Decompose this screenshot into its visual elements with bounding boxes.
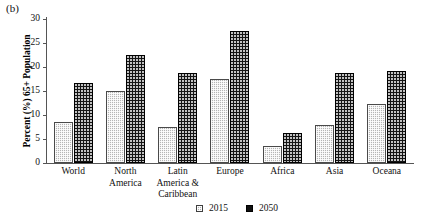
figure-panel-b: (b) Percent (%) 65+ Population 051015202…: [0, 0, 421, 218]
bar-group: [99, 19, 151, 163]
y-axis-tick-mark: [43, 163, 47, 164]
bar-2050-north-america: [126, 55, 145, 163]
bar-2050-latin-america-caribbean: [178, 73, 197, 163]
x-axis-label-line: Oceana: [355, 166, 419, 178]
bar-2015-latin-america-caribbean: [158, 127, 177, 163]
y-axis-tick-label: 0: [35, 156, 40, 169]
bar-group: [47, 19, 99, 163]
bar-2050-asia: [335, 73, 354, 163]
x-axis-label-line: Caribbean: [146, 189, 210, 201]
bar-2015-asia: [315, 125, 334, 163]
plot-area: [47, 19, 413, 163]
bar-2050-africa: [283, 133, 302, 163]
solid-black-swatch: [246, 205, 253, 212]
legend-label: 2015: [209, 203, 228, 213]
y-axis-tick-label: 25: [31, 36, 41, 49]
legend-item-2015[interactable]: 2015: [196, 203, 228, 213]
y-axis-tick-label: 15: [31, 84, 41, 97]
bar-group: [361, 19, 413, 163]
checkered-gray-swatch: [196, 205, 203, 212]
x-axis-label-oceana: Oceana: [355, 166, 419, 178]
bar-group: [256, 19, 308, 163]
bar-group: [152, 19, 204, 163]
y-axis-tick-label: 30: [31, 12, 41, 25]
bar-2015-world: [54, 122, 73, 163]
bar-2015-africa: [263, 146, 282, 163]
y-axis-tick-label: 20: [31, 60, 41, 73]
bar-2050-world: [74, 83, 93, 163]
bar-2015-europe: [210, 79, 229, 163]
bar-2050-oceana: [387, 71, 406, 163]
y-axis-tick-label: 10: [31, 108, 41, 121]
bar-2015-oceana: [367, 104, 386, 163]
legend-item-2050[interactable]: 2050: [246, 203, 278, 213]
bar-2015-north-america: [106, 91, 125, 163]
bar-2050-europe: [230, 31, 249, 163]
x-axis-line: [46, 163, 414, 164]
bar-group: [308, 19, 360, 163]
chart-legend: 20152050: [196, 203, 278, 213]
legend-label: 2050: [259, 203, 278, 213]
panel-label: (b): [6, 2, 19, 14]
x-axis-label-line: America &: [146, 178, 210, 190]
bar-group: [204, 19, 256, 163]
y-axis-tick-label: 5: [35, 132, 40, 145]
